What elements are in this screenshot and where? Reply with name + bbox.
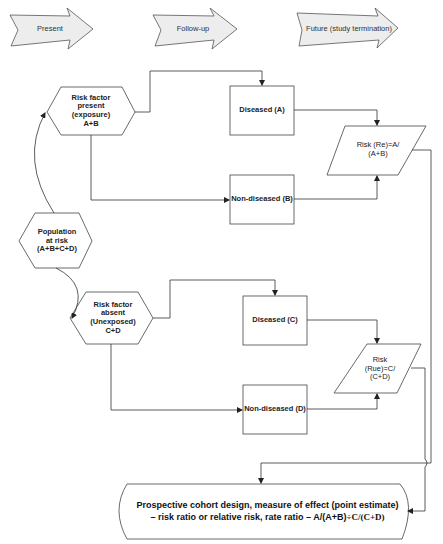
conclusion-line-1: Prospective cohort design, measure of ef… [136,499,398,511]
exposed-node-label: Risk factor present (exposure) A+B [58,88,124,134]
conclusion-line-2: – risk ratio or relative risk, rate rati… [150,511,384,523]
conclusion-line-2-suffix: ÷C/(C+D) [346,512,384,522]
population-line-3: (A+B+C+D) [37,245,77,254]
diseased-a-label: Diseased (A) [230,86,294,135]
unexposed-node-label: Risk factor absent (Unexposed) C+D [80,294,146,342]
exposed-line-4: A+B [83,120,98,129]
diagram-canvas [0,0,443,544]
risk-exposed-label: Risk (Re)=A/ (A+B) [345,135,411,165]
conclusion-line-2-prefix: – risk ratio or relative risk, rate rati… [150,512,346,522]
timeline-label-follow-up: Follow-up [163,22,223,36]
timeline-label-present: Present [20,22,80,36]
risk-unexposed-line-3: (C+D) [370,373,390,382]
population-node-label: Population at risk (A+B+C+D) [24,216,90,266]
timeline-label-future: Future (study termination) [303,22,395,36]
nondiseased-d-label: Non-diseased (D) [243,385,307,434]
unexposed-line-4: C+D [105,327,120,336]
diseased-c-label: Diseased (C) [243,296,307,345]
conclusion-label: Prospective cohort design, measure of ef… [125,490,410,532]
nondiseased-b-label: Non-diseased (B) [230,175,294,224]
risk-exposed-line-2: (A+B) [368,150,387,159]
risk-unexposed-label: Risk (Rue)=C/ (C+D) [350,350,410,388]
